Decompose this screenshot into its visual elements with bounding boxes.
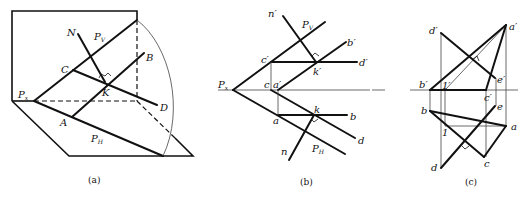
label-a: a xyxy=(273,115,279,126)
label-c: c xyxy=(484,158,490,169)
label-n: n xyxy=(281,146,287,157)
label-d: d xyxy=(358,135,364,146)
label-k-prime: k′ xyxy=(313,66,322,77)
label-e-prime: e′ xyxy=(497,74,506,85)
label-c: c xyxy=(264,79,270,90)
label-b: b xyxy=(350,111,356,122)
label-d-prime: d′ xyxy=(359,57,368,68)
panel-c-orthographic: d′ a′ e′ b′ 1′ c′ e b a 1 c d (c) xyxy=(372,21,518,187)
label-b-prime: b′ xyxy=(419,79,428,90)
right-angle-mark-v xyxy=(312,53,319,56)
line-ac xyxy=(484,126,506,157)
label-b-prime: b′ xyxy=(347,37,356,48)
label-K: K xyxy=(101,87,110,98)
label-Px: Px xyxy=(17,89,29,101)
line-cd xyxy=(73,70,157,105)
line-nk xyxy=(289,115,314,160)
line-d-prime-e-prime xyxy=(441,33,495,78)
right-angle-mark-h xyxy=(462,146,469,149)
line-n-prime-k-prime xyxy=(283,16,316,62)
label-1-prime: 1′ xyxy=(442,80,451,91)
label-a-prime: a′ xyxy=(509,21,518,32)
label-k: k xyxy=(314,104,320,115)
label-c-prime: c′ xyxy=(484,92,493,103)
label-PH: PH xyxy=(311,143,325,155)
hidden-diagonal-line xyxy=(137,101,175,138)
v-plane-frame xyxy=(12,11,137,101)
panel-b-orthographic: n′ PV b′ c′ k′ d′ Px c a′ k a b d n PH (… xyxy=(217,8,370,187)
label-c-prime: c′ xyxy=(261,54,270,65)
label-Px: Px xyxy=(217,79,229,91)
label-Pv: PV xyxy=(93,31,106,43)
panel-a-perspective: N PV B C K Px D A PH (a) xyxy=(12,11,193,185)
label-a: a xyxy=(511,121,517,132)
caption-b: (b) xyxy=(300,177,313,187)
label-n-prime: n′ xyxy=(268,8,277,19)
label-e: e xyxy=(497,101,503,112)
label-b: b xyxy=(421,105,427,116)
label-a-prime: a′ xyxy=(273,79,282,90)
label-1: 1 xyxy=(442,127,448,138)
label-C: C xyxy=(61,64,69,75)
label-d: d xyxy=(431,162,437,173)
label-Pv: PV xyxy=(301,19,314,31)
rotation-arc xyxy=(137,20,173,156)
ph-trace-line xyxy=(34,101,163,156)
projection-diagram: N PV B C K Px D A PH (a) n′ P xyxy=(0,0,524,197)
label-B: B xyxy=(145,52,153,63)
pv-trace-line xyxy=(34,20,137,101)
label-A: A xyxy=(59,117,67,128)
caption-c: (c) xyxy=(465,177,477,187)
caption-a: (a) xyxy=(88,175,100,185)
right-angle-mark-2 xyxy=(105,73,111,76)
label-PH: PH xyxy=(90,133,104,145)
label-N: N xyxy=(66,27,77,38)
label-D: D xyxy=(159,102,168,113)
label-d-prime: d′ xyxy=(429,25,438,36)
